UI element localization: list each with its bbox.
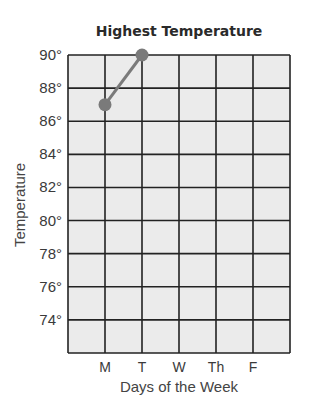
y-axis-label: Temperature <box>11 163 28 247</box>
data-point <box>136 49 149 62</box>
y-tick-label: 86° <box>39 112 62 129</box>
y-tick-label: 82° <box>39 178 62 195</box>
y-tick-label: 84° <box>39 145 62 162</box>
y-tick-label: 78° <box>39 245 62 262</box>
y-tick-label: 90° <box>39 46 62 63</box>
y-tick-label: 76° <box>39 278 62 295</box>
x-axis-ticks: MTWThF <box>99 359 257 375</box>
chart-title: Highest Temperature <box>96 23 263 39</box>
data-point <box>99 98 112 111</box>
y-tick-label: 88° <box>39 79 62 96</box>
x-tick-label: F <box>249 359 258 375</box>
x-tick-label: Th <box>208 359 224 375</box>
y-tick-label: 74° <box>39 311 62 328</box>
x-axis-label: Days of the Week <box>120 378 239 395</box>
y-tick-label: 80° <box>39 212 62 229</box>
x-tick-label: M <box>99 359 111 375</box>
y-axis-ticks: 74°76°78°80°82°84°86°88°90° <box>39 46 62 328</box>
x-tick-label: W <box>172 359 186 375</box>
line-chart: Highest Temperature 74°76°78°80°82°84°86… <box>0 0 311 420</box>
x-tick-label: T <box>138 359 147 375</box>
